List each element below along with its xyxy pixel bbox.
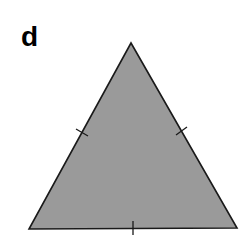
triangle-diagram	[0, 0, 250, 244]
equilateral-triangle	[29, 43, 237, 229]
